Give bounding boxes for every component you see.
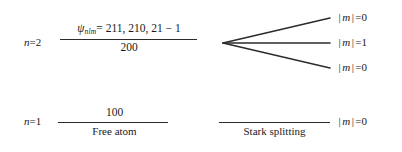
stark-effect-energy-level-diagram: n=2 ψnlm= 211, 210, 21 − 1 200 n=1 100 F… [0, 0, 402, 152]
m-value-lower: 0 [362, 61, 368, 73]
stark-split-line-upper [223, 18, 330, 43]
stark-splitting-caption: Stark splitting [219, 125, 330, 137]
stark-split-line-lower [223, 43, 330, 68]
m-symbol-ground: m [342, 115, 350, 127]
stark-m-label-upper: |m|=0 [337, 11, 367, 23]
m-symbol-middle: m [342, 36, 350, 48]
m-symbol-lower: m [342, 61, 350, 73]
m-value-upper: 0 [362, 11, 368, 23]
stark-m-label-lower: |m|=0 [337, 61, 367, 73]
m-symbol-upper: m [342, 11, 350, 23]
stark-ground-level-line [219, 122, 330, 123]
stark-m-label-ground: |m|=0 [337, 115, 367, 127]
m-value-ground: 0 [362, 115, 368, 127]
stark-m-label-middle: |m|=1 [337, 36, 367, 48]
m-value-middle: 1 [362, 36, 368, 48]
